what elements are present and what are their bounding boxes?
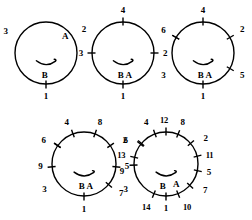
tick-label-2: 2 bbox=[240, 25, 244, 34]
tick-label-13: 13 bbox=[117, 151, 125, 160]
circle-figure-5: 1234567891011121314BA bbox=[110, 108, 222, 220]
tick-mark-11 bbox=[194, 155, 202, 157]
tick-label-14: 14 bbox=[142, 202, 150, 211]
smile-arc bbox=[156, 171, 176, 176]
smile-arc bbox=[74, 171, 94, 176]
tick-label-9: 9 bbox=[120, 167, 124, 176]
tick-label-1: 1 bbox=[82, 204, 86, 213]
inner-label-B-A: B A bbox=[79, 182, 93, 191]
tick-label-6: 6 bbox=[42, 135, 46, 144]
tick-label-2: 2 bbox=[204, 134, 208, 143]
tick-label-4: 4 bbox=[144, 118, 148, 127]
tick-label-5: 5 bbox=[240, 71, 244, 80]
tick-label-12: 12 bbox=[160, 115, 168, 124]
smile-arc bbox=[193, 59, 213, 64]
tick-label-1: 1 bbox=[164, 204, 168, 213]
tick-label-1: 1 bbox=[121, 92, 125, 101]
tick-label-3: 3 bbox=[79, 49, 83, 58]
tick-label-6: 6 bbox=[161, 26, 165, 35]
inner-label-B-A: B A bbox=[118, 71, 132, 80]
tick-label-3: 3 bbox=[4, 26, 8, 35]
tick-label-1: 1 bbox=[201, 92, 205, 101]
tick-label-3: 3 bbox=[124, 184, 128, 193]
tick-mark-9 bbox=[48, 166, 56, 167]
smile-arc bbox=[113, 59, 133, 64]
tick-label-10: 10 bbox=[183, 202, 191, 211]
tick-label-1: 1 bbox=[44, 91, 48, 100]
tick-label-3: 3 bbox=[42, 184, 46, 193]
inner-label-B: B bbox=[42, 71, 48, 80]
smile-arc bbox=[36, 59, 56, 64]
tick-label-5: 5 bbox=[207, 168, 211, 177]
tick-mark-13 bbox=[130, 156, 138, 158]
tick-mark-5 bbox=[194, 170, 202, 172]
tick-label-9: 9 bbox=[38, 161, 42, 170]
tick-label-8: 8 bbox=[180, 118, 184, 127]
tick-label-3: 3 bbox=[161, 70, 165, 79]
tick-label-7: 7 bbox=[203, 185, 207, 194]
tick-label-4: 4 bbox=[201, 5, 205, 14]
circle-figure-3: 123456B A bbox=[148, 0, 252, 108]
tick-label-4: 4 bbox=[65, 117, 69, 126]
tick-label-11: 11 bbox=[206, 151, 214, 160]
diagram-canvas: 123AB1234B A123456B A123456789B A1234567… bbox=[0, 0, 252, 220]
inner-label-B: B bbox=[160, 182, 166, 191]
tick-label-8: 8 bbox=[98, 117, 102, 126]
tick-label-6: 6 bbox=[124, 136, 128, 145]
inner-label-A: A bbox=[173, 179, 180, 188]
tick-label-4: 4 bbox=[121, 5, 125, 14]
circle-outline bbox=[134, 132, 198, 196]
inner-label-B-A: B A bbox=[198, 71, 212, 80]
